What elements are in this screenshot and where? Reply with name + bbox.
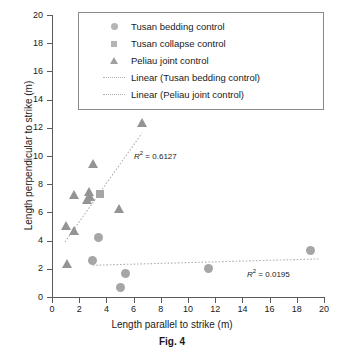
legend-key-0 (101, 23, 127, 30)
data-point (137, 118, 147, 127)
legend-key-3 (101, 77, 127, 78)
dotted-line-icon (103, 94, 125, 95)
data-point (96, 190, 104, 198)
chart-legend: Tusan bedding controlTusan collapse cont… (78, 12, 324, 110)
legend-label: Tusan collapse control (127, 38, 226, 49)
r2-annotation-peliau: R2 = 0.6127 (134, 150, 177, 161)
legend-item-2[interactable]: Peliau joint control (79, 52, 323, 69)
legend-label: Linear (Peliau joint control) (127, 89, 244, 100)
data-point (69, 226, 79, 235)
legend-item-1[interactable]: Tusan collapse control (79, 35, 323, 52)
dotted-line-icon (103, 77, 125, 78)
figure-caption: Fig. 4 (0, 336, 344, 347)
legend-key-4 (101, 94, 127, 95)
legend-key-1 (101, 41, 127, 47)
legend-item-3[interactable]: Linear (Tusan bedding control) (79, 69, 323, 86)
data-point (69, 190, 79, 199)
legend-label: Linear (Tusan bedding control) (127, 72, 260, 83)
legend-label: Peliau joint control (127, 55, 209, 66)
data-point (306, 246, 315, 255)
r2-value-peliau: = 0.6127 (145, 152, 176, 161)
legend-item-0[interactable]: Tusan bedding control (79, 18, 323, 35)
x-axis-title: Length parallel to strike (m) (0, 319, 344, 330)
data-point (116, 283, 125, 292)
data-point (62, 259, 72, 268)
square-marker-icon (111, 41, 117, 47)
data-point (114, 204, 124, 213)
data-point (94, 233, 103, 242)
triangle-marker-icon (110, 57, 118, 64)
legend-item-4[interactable]: Linear (Peliau joint control) (79, 86, 323, 103)
figure-container: 02468101214161820 02468101214161820 R2 =… (0, 0, 344, 352)
data-point (88, 159, 98, 168)
legend-key-2 (101, 57, 127, 64)
data-point (85, 192, 95, 201)
circle-marker-icon (111, 23, 118, 30)
legend-label: Tusan bedding control (127, 21, 225, 32)
y-axis-title: Length perpendicular to strike (m) (23, 46, 34, 266)
data-point (121, 269, 130, 278)
r2-value-tusan: = 0.0195 (258, 270, 289, 279)
r2-annotation-tusan: R2 = 0.0195 (247, 268, 290, 279)
